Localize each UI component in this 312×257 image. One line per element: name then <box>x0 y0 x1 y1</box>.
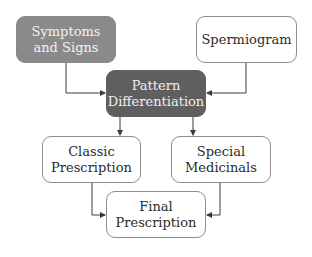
node-symptoms-and-signs: Symptoms and Signs <box>16 16 116 63</box>
edge-special-to-final <box>207 183 220 215</box>
edge-spermiogram-to-pattern <box>207 63 246 93</box>
node-label: Symptoms and Signs <box>32 24 101 56</box>
edge-symptoms-to-pattern <box>66 63 105 93</box>
node-label: Pattern Differentiation <box>108 78 205 110</box>
node-classic-prescription: Classic Prescription <box>42 136 141 183</box>
node-final-prescription: Final Prescription <box>106 191 206 238</box>
node-label: Classic Prescription <box>51 144 132 176</box>
node-special-medicinals: Special Medicinals <box>171 136 271 183</box>
node-label: Final Prescription <box>116 199 197 231</box>
node-spermiogram: Spermiogram <box>196 16 297 63</box>
node-label: Special Medicinals <box>185 144 257 176</box>
edge-classic-to-final <box>92 183 105 215</box>
flowchart: Symptoms and Signs Spermiogram Pattern D… <box>0 0 312 257</box>
node-label: Spermiogram <box>201 32 291 48</box>
node-pattern-differentiation: Pattern Differentiation <box>106 70 206 117</box>
